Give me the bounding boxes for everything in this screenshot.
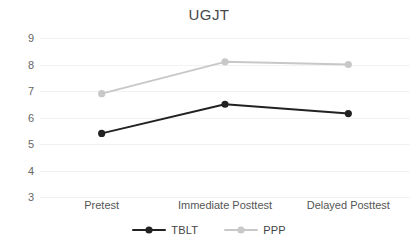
- data-point-tblt: [221, 101, 228, 108]
- data-point-ppp: [345, 61, 352, 68]
- y-axis-tick-label: 9: [8, 32, 34, 44]
- x-axis-tick-label: Pretest: [84, 199, 119, 211]
- y-axis-tick-label: 5: [8, 138, 34, 150]
- data-point-ppp: [98, 90, 105, 97]
- series-line-tblt: [102, 104, 349, 133]
- y-axis: 9876543: [0, 38, 34, 197]
- legend-marker-icon: [132, 224, 166, 236]
- gridline: [40, 197, 410, 198]
- x-axis-tick-label: Delayed Posttest: [307, 199, 390, 211]
- y-axis-tick-label: 6: [8, 112, 34, 124]
- series-layer: [40, 38, 410, 197]
- y-axis-tick-label: 4: [8, 165, 34, 177]
- y-axis-tick-label: 3: [8, 191, 34, 203]
- data-point-tblt: [98, 130, 105, 137]
- data-point-tblt: [345, 110, 352, 117]
- chart-container: UGJT 9876543 PretestImmediate PosttestDe…: [0, 0, 418, 247]
- y-axis-tick-label: 8: [8, 59, 34, 71]
- legend-item-ppp[interactable]: PPP: [224, 224, 286, 236]
- legend-marker-icon: [224, 224, 258, 236]
- data-point-ppp: [221, 58, 228, 65]
- plot-area: [40, 38, 410, 197]
- series-line-ppp: [102, 62, 349, 94]
- legend-label: PPP: [263, 224, 286, 236]
- y-axis-tick-label: 7: [8, 85, 34, 97]
- legend-item-tblt[interactable]: TBLT: [132, 224, 198, 236]
- chart-legend: TBLTPPP: [0, 224, 418, 236]
- legend-label: TBLT: [171, 224, 198, 236]
- x-axis-tick-label: Immediate Posttest: [178, 199, 272, 211]
- x-axis: PretestImmediate PosttestDelayed Posttes…: [40, 199, 410, 217]
- chart-title: UGJT: [0, 6, 418, 23]
